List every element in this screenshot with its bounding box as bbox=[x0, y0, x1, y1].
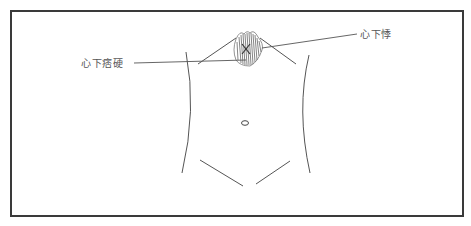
label-epigastric-stiffness: 心下痞硬 bbox=[81, 58, 123, 70]
torso-sides bbox=[182, 52, 310, 173]
torso-right-side bbox=[303, 55, 310, 173]
torso-left-side bbox=[182, 52, 191, 173]
navel bbox=[242, 121, 249, 126]
leader-line-left bbox=[134, 60, 246, 63]
abdomen-drawing bbox=[0, 0, 471, 226]
leader-line-right bbox=[262, 34, 357, 48]
groin-lines bbox=[200, 160, 290, 186]
label-epigastric-palpitation: 心下悸 bbox=[360, 29, 392, 41]
epigastric-hatched-region bbox=[234, 32, 263, 66]
